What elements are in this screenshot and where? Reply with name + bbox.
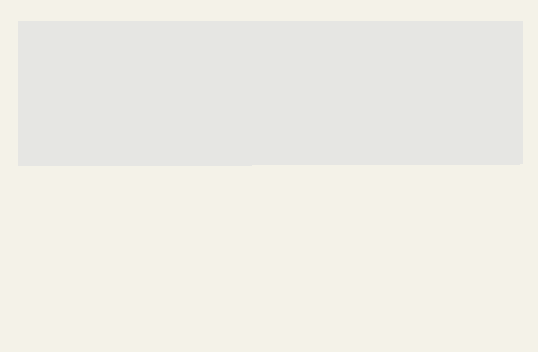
map-page	[0, 0, 538, 352]
election-map	[0, 0, 538, 352]
